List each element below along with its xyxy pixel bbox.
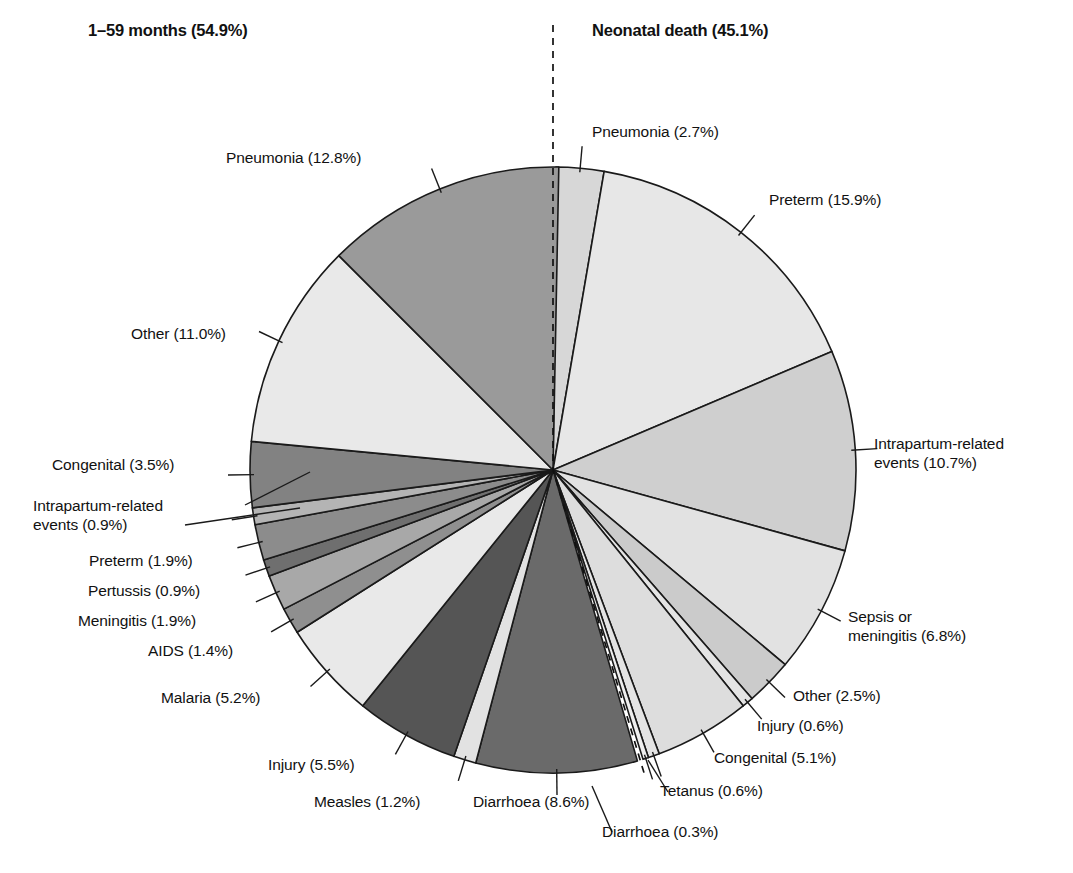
leader-neonatal-1 [739,215,755,235]
group-title-1-59-months: 1–59 months (54.9%) [88,21,247,40]
label-left-other: Other (11.0%) [131,324,226,343]
leader-neonatal-7 [653,752,662,777]
label-left-preterm: Preterm (1.9%) [89,551,193,570]
label-left-diarrhoea: Diarrhoea (8.6%) [473,792,589,811]
label-left-malaria: Malaria (5.2%) [161,688,260,707]
label-right-sepsis-line1: Sepsis or [848,607,912,626]
label-left-aids: AIDS (1.4%) [148,641,233,660]
leader-1-59-11 [432,169,442,193]
label-right-pneumonia: Pneumonia (2.7%) [592,122,719,141]
label-right-intrapartum-line1: Intrapartum-related [874,434,1004,453]
leader-1-59-5 [256,591,280,602]
group-title-neonatal-death: Neonatal death (45.1%) [592,21,768,40]
label-left-pertussis: Pertussis (0.9%) [88,581,200,600]
leader-1-59-4 [271,619,294,632]
label-right-sepsis-line2: meningitis (6.8%) [848,626,966,645]
leader-1-59-10 [259,332,283,343]
leader-neonatal-6 [701,730,714,753]
label-left-intrapartum-line1: Intrapartum-related [33,496,163,515]
label-left-intrapartum-line2: events (0.9%) [33,515,127,534]
chart-canvas: 1–59 months (54.9%) Neonatal death (45.1… [0,0,1073,873]
leader-neonatal-3 [818,609,841,621]
leader-1-59-2 [395,732,408,755]
label-right-diarrhoea: Diarrhoea (0.3%) [602,822,718,841]
leader-1-59-3 [311,669,330,686]
label-left-measles: Measles (1.2%) [314,792,420,811]
label-left-congenital: Congenital (3.5%) [52,455,174,474]
label-right-preterm: Preterm (15.9%) [769,190,881,209]
label-right-congenital: Congenital (5.1%) [714,748,836,767]
label-left-meningitis: Meningitis (1.9%) [78,611,196,630]
label-right-tetanus: Tetanus (0.6%) [660,781,763,800]
leader-neonatal-8 [645,755,653,780]
label-right-intrapartum-line2: events (10.7%) [874,453,977,472]
leader-neonatal-4 [766,679,785,697]
label-right-injury: Injury (0.6%) [757,716,844,735]
leader-1-59-6 [246,567,271,575]
label-right-other: Other (2.5%) [793,686,881,705]
label-left-pneumonia: Pneumonia (12.8%) [226,148,361,167]
label-left-injury: Injury (5.5%) [268,755,355,774]
